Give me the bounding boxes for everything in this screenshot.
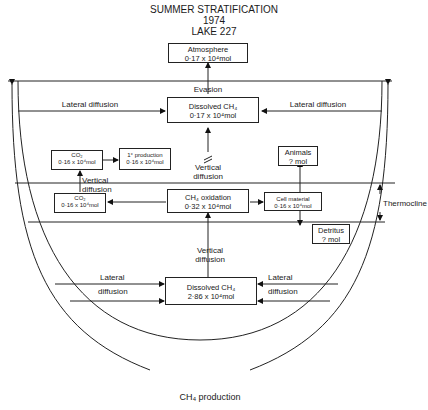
lr-lower-line1: Lateral [268, 273, 328, 282]
cell-material-box: Cell material 0·16 x 10⁴mol [264, 192, 322, 211]
title-line-1: SUMMER STRATIFICATION [144, 4, 284, 15]
dissolved-ch4-upper-box: Dissolved CH₄ 0·17 x 10⁴mol [167, 97, 259, 123]
lateral-diffusion-left-lower: Lateral diffusion [80, 273, 140, 296]
thermocline-label: Thermocline [383, 199, 427, 208]
atmosphere-box: Atmosphere 0·17 x 10⁴mol [168, 43, 248, 63]
animals-label: Animals [279, 148, 317, 157]
cell-material-value: 0·16 x 10⁴mol [265, 203, 321, 210]
dissolved-lower-label: Dissolved CH₄ [166, 283, 256, 292]
vd-lower-line2: diffusion [188, 255, 232, 264]
ch4-oxidation-label: CH₄ oxidation [168, 193, 248, 202]
atmosphere-value: 0·17 x 10⁴mol [169, 54, 247, 63]
co2-upper-value: 0·16 x 10⁴mol [52, 159, 102, 166]
co2-upper-box: CO₂ 0·16 x 10⁴mol [51, 150, 103, 170]
co2-lower-value: 0·16 x 10⁴mol [55, 202, 105, 209]
dissolved-upper-label: Dissolved CH₄ [168, 102, 258, 111]
diagram-title: SUMMER STRATIFICATION 1974 LAKE 227 [144, 4, 284, 37]
co2-lower-box: CO₂ 0·16 x 10⁴mol [54, 193, 106, 213]
co2-lower-label: CO₂ [55, 195, 105, 202]
lr-lower-line2: diffusion [268, 287, 328, 296]
title-line-3: LAKE 227 [144, 26, 284, 37]
vertical-diffusion-lower: Vertical diffusion [188, 246, 232, 264]
ch4-oxidation-box: CH₄ oxidation 0·32 x 10⁴mol [167, 189, 249, 213]
atmosphere-label: Atmosphere [169, 45, 247, 54]
dissolved-upper-value: 0·17 x 10⁴mol [168, 111, 258, 120]
cell-material-label: Cell material [265, 196, 321, 203]
lateral-diffusion-left-upper: Lateral diffusion [50, 100, 130, 109]
ll-lower-line1: Lateral [80, 273, 140, 282]
ll-lower-line2: diffusion [80, 287, 140, 296]
animals-value: ? mol [279, 157, 317, 166]
vertical-diffusion-mid: Vertical diffusion [183, 163, 233, 181]
title-line-2: 1974 [144, 15, 284, 26]
lateral-diffusion-right-upper: Lateral diffusion [278, 100, 358, 109]
evasion-label: Evasion [188, 85, 228, 94]
co2-upper-label: CO₂ [52, 152, 102, 159]
vd-left-line1: Vertical [82, 176, 126, 185]
detritus-box: Detritus ? mol [312, 224, 350, 244]
animals-box: Animals ? mol [278, 146, 318, 166]
dissolved-ch4-lower-box: Dissolved CH₄ 2·86 x 10⁴mol [165, 277, 257, 305]
primary-production-label: 1° production [120, 152, 170, 159]
vd-mid-line1: Vertical [183, 163, 233, 172]
vd-mid-line2: diffusion [183, 172, 233, 181]
detritus-value: ? mol [313, 235, 349, 244]
vd-lower-line1: Vertical [188, 246, 232, 255]
primary-production-value: 0·16 x 10⁴mol [120, 159, 170, 166]
lateral-diffusion-right-lower: Lateral diffusion [268, 273, 328, 296]
vertical-diffusion-left: Vertical diffusion [82, 176, 126, 194]
ch4-production-label: CH₄ production [160, 393, 260, 402]
primary-production-box: 1° production 0·16 x 10⁴mol [119, 148, 171, 170]
detritus-label: Detritus [313, 226, 349, 235]
dissolved-lower-value: 2·86 x 10⁴mol [166, 292, 256, 301]
ch4-oxidation-value: 0·32 x 10⁴mol [168, 202, 248, 211]
